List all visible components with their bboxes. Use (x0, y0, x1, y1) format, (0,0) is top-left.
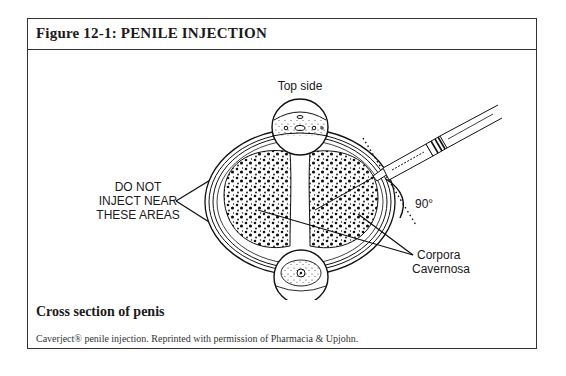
figure-caption: Cross section of penis (36, 304, 164, 320)
svg-text:DO NOT: DO NOT (115, 180, 162, 194)
figure-title: Figure 12-1: PENILE INJECTION (28, 19, 536, 50)
figure-credit: Caverject® penile injection. Reprinted w… (36, 333, 358, 344)
corpora-label-line2: Cavernosa (412, 262, 470, 276)
warning-label: DO NOT INJECT NEAR THESE AREAS (96, 180, 179, 222)
figure-box: Figure 12-1: PENILE INJECTION DO NOT INJ… (27, 18, 537, 349)
top-side-label: Top side (278, 79, 323, 93)
penis-cross-section-diagram: DO NOT INJECT NEAR THESE AREAS (28, 50, 536, 300)
svg-text:THESE AREAS: THESE AREAS (96, 208, 179, 222)
svg-text:INJECT NEAR: INJECT NEAR (99, 194, 178, 208)
corpora-label-line1: Corpora (417, 248, 461, 262)
top-side-circle (272, 99, 328, 155)
underside-circle (274, 250, 328, 300)
angle-label: 90° (415, 197, 433, 211)
